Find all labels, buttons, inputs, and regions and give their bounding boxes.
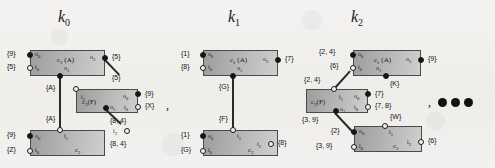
port-i0-c2-k0[interactable] [27, 148, 33, 154]
separator-comma-3: , [428, 95, 431, 110]
port-i1-c2-k0[interactable] [57, 127, 63, 133]
port-label-o0-c2-k2: o0 [359, 128, 364, 136]
port-i0-c1-k0[interactable] [27, 65, 33, 71]
set-label-i0-c3-k0: {X} [145, 102, 154, 109]
port-o0-c2-k2[interactable] [351, 129, 357, 135]
component-label-c1-k0: c1 (A) [57, 56, 74, 65]
port-o2-c1-k1[interactable] [275, 57, 281, 63]
port-i2-c2-k1[interactable] [268, 141, 274, 147]
port-label-o0-c1-k0: o0 [35, 51, 40, 59]
port-o0-c3-k2[interactable] [365, 91, 371, 97]
port-label-i0-c1-k2: i0 [358, 64, 362, 72]
panel-title-k2: k2 [351, 8, 363, 28]
port-o0-c3-k0[interactable] [135, 91, 141, 97]
figure-canvas: k0 c1 (A) c3(F) c2 o0 {9} i0 {5} o2 {5} … [0, 0, 495, 168]
port-label-o2-c1-k0: o2 [90, 54, 95, 62]
port-label-o1-c1-k1: o1 [237, 65, 242, 73]
set-label-o2-c1-k0: {5} [112, 53, 121, 60]
set-label-i0-c3-k2: {7, 8} [375, 102, 391, 109]
set-label-o0-c1-k2: {2, 4} [319, 48, 335, 55]
set-label-i2-c2-k1: {8} [278, 139, 287, 146]
port-label-o0-c3-k2: o0 [354, 93, 359, 101]
separator-comma-1: , [166, 98, 169, 113]
port-o2-c1-k0[interactable] [102, 55, 108, 61]
port-label-o1-c1-k0: o1 [64, 65, 69, 73]
edge-label-a-lower-k0: {A} [46, 115, 55, 122]
port-label-i1-c3-k2: i1 [339, 94, 343, 102]
ellipsis-dot-1 [438, 98, 447, 107]
port-i1-c3-k2[interactable] [331, 86, 337, 92]
component-label-c1-k2: c1 (A) [374, 56, 391, 65]
set-label-o2-c1-k2: {9} [428, 55, 437, 62]
port-label-i0-c2-k0: i0 [35, 147, 39, 155]
port-i0-c1-k1[interactable] [200, 65, 206, 71]
set-label-o0-c2-k0: {9} [7, 131, 16, 138]
ellipsis-dot-2 [451, 98, 460, 107]
port-o0-c1-k1[interactable] [200, 52, 206, 58]
port-o1-c1-k2[interactable] [383, 73, 389, 79]
panel-title-k0: k0 [58, 8, 70, 28]
port-label-o0-c1-k1: o0 [208, 51, 213, 59]
set-label-o1-c3-k0: {8, 4} [110, 117, 126, 124]
port-label-o0-c2-k1: o0 [208, 133, 213, 141]
port-i0-c3-k0[interactable] [135, 104, 141, 110]
port-o0-c1-k0[interactable] [27, 52, 33, 58]
set-label-o2-c1-k1: {7} [285, 55, 294, 62]
port-o1-c3-k0[interactable] [103, 105, 109, 111]
port-label-o2-c1-k2: o2 [406, 56, 411, 64]
panel-k0: k0 c1 (A) c3(F) c2 o0 {9} i0 {5} o2 {5} … [0, 0, 170, 168]
port-label-i0-c2-k1: i0 [208, 147, 212, 155]
set-label-i2-c2-k2: {6} [428, 137, 437, 144]
port-o0-c2-k0[interactable] [27, 133, 33, 139]
port-i1-c2-k2[interactable] [382, 123, 388, 129]
port-label-i0-c1-k1: i0 [208, 64, 212, 72]
set-label-i0-c1-k0: {5} [7, 63, 16, 70]
port-i2-c2-k0[interactable] [124, 128, 130, 134]
edge-label-g-k1: {G} [219, 83, 229, 90]
port-label-o0-c2-k0: o0 [35, 133, 40, 141]
port-i1-c2-k1[interactable] [230, 127, 236, 133]
set-label-i0-c1-k2: {6} [330, 62, 339, 69]
port-i1-c3-k0[interactable] [73, 86, 79, 92]
set-label-o0-c1-k1: {1} [181, 50, 190, 57]
port-label-i2-c2-k0: i2 [113, 128, 117, 136]
port-label-o2-c1-k1: o2 [263, 56, 268, 64]
port-label-o0-c3-k0: o0 [123, 93, 128, 101]
component-label-c2-k2: c2 [393, 142, 399, 151]
port-label-i1-c2-k0: i1 [64, 133, 68, 141]
port-o2-c1-k2[interactable] [418, 57, 424, 63]
port-label-i0-c3-k2: i0 [354, 104, 358, 112]
panel-title-k1: k1 [228, 8, 240, 28]
set-label-o0-c3-k0: {9} [145, 90, 154, 97]
panel-k2: k2 c1 (A) c3(F) c2 o0 {2, 4} i0 {6} o2 {… [318, 0, 428, 168]
port-i0-c2-k2[interactable] [351, 144, 357, 150]
port-i2-c2-k2[interactable] [418, 139, 424, 145]
port-o0-c2-k1[interactable] [200, 133, 206, 139]
port-label-i1-c2-k2: i1 [389, 129, 393, 137]
port-label-i2-c2-k2: i2 [407, 139, 411, 147]
set-label-i0-c2-k1: {G} [181, 146, 191, 153]
component-label-c1-k1: c1 (A) [230, 56, 247, 65]
component-label-c2-k1: c2 [248, 146, 254, 155]
ellipsis-three-dots [438, 98, 473, 107]
ellipsis-dot-3 [464, 98, 473, 107]
wire-c1o1-to-c2i1 [59, 76, 61, 133]
port-label-o1-c3-k2: o1 [340, 106, 345, 114]
port-label-i1-c2-k1: i1 [237, 133, 241, 141]
port-i0-c3-k2[interactable] [365, 104, 371, 110]
set-label-i1-c2-k2: {W} [390, 113, 401, 120]
panel-k1: k1 c1 (A) c2 o0 {1} i0 {8} o2 {7} o1 {G}… [175, 0, 315, 168]
port-label-i0-c2-k2: i0 [359, 143, 363, 151]
port-label-o1-c3-k0: o1 [110, 104, 115, 112]
port-o1-c3-k2[interactable] [333, 108, 339, 114]
port-label-o1-c1-k2: o1 [376, 65, 381, 73]
set-label-i0-c2-k0: {Z} [7, 146, 16, 153]
port-o0-c1-k2[interactable] [350, 52, 356, 58]
set-label-o1-c1-k2: {K} [390, 80, 399, 87]
port-o1-c1-k0[interactable] [57, 73, 63, 79]
set-label-o0-c2-k2: {2} [331, 127, 340, 134]
port-i0-c2-k1[interactable] [200, 148, 206, 154]
port-i0-c1-k2[interactable] [350, 65, 356, 71]
port-o1-c1-k1[interactable] [230, 73, 236, 79]
port-label-i0-c1-k0: i0 [35, 64, 39, 72]
